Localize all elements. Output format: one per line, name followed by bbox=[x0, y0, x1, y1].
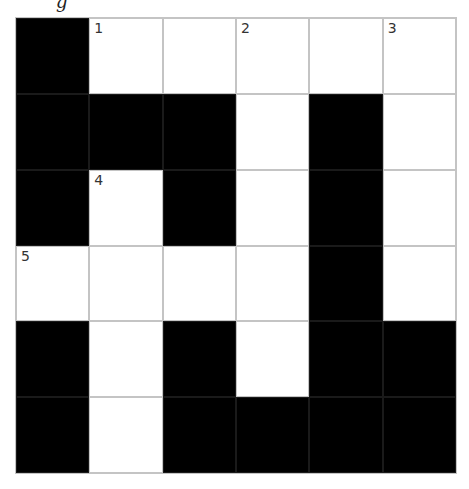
crossword-cell-black bbox=[164, 398, 235, 472]
crossword-cell-white[interactable]: 3 bbox=[384, 19, 455, 93]
crossword-cell-black bbox=[17, 322, 88, 396]
cropped-heading-fragment: g bbox=[56, 0, 68, 12]
crossword-cell-white[interactable] bbox=[384, 171, 455, 245]
clue-number: 2 bbox=[241, 21, 250, 35]
crossword-grid: 12345 bbox=[15, 17, 457, 474]
crossword-cell-black bbox=[310, 171, 381, 245]
clue-number: 5 bbox=[21, 249, 30, 263]
crossword-cell-white[interactable] bbox=[164, 247, 235, 321]
crossword-cell-white[interactable]: 5 bbox=[17, 247, 88, 321]
crossword-cell-white[interactable]: 2 bbox=[237, 19, 308, 93]
crossword-cell-black bbox=[310, 398, 381, 472]
crossword-cell-white[interactable] bbox=[237, 247, 308, 321]
crossword-cell-white[interactable] bbox=[384, 95, 455, 169]
crossword-cell-black bbox=[384, 398, 455, 472]
crossword-cell-white[interactable] bbox=[384, 247, 455, 321]
crossword-cell-black bbox=[17, 95, 88, 169]
crossword-cell-black bbox=[17, 19, 88, 93]
crossword-cell-white[interactable] bbox=[237, 95, 308, 169]
crossword-cell-white[interactable] bbox=[237, 171, 308, 245]
crossword-cell-black bbox=[17, 398, 88, 472]
crossword-cell-white[interactable] bbox=[164, 19, 235, 93]
crossword-cell-white[interactable] bbox=[237, 322, 308, 396]
crossword-cell-black bbox=[384, 322, 455, 396]
crossword-cell-black bbox=[237, 398, 308, 472]
clue-number: 1 bbox=[94, 21, 103, 35]
crossword-cell-black bbox=[164, 171, 235, 245]
crossword-cell-black bbox=[17, 171, 88, 245]
crossword-cell-black bbox=[310, 322, 381, 396]
crossword-cell-black bbox=[164, 322, 235, 396]
crossword-cell-black bbox=[164, 95, 235, 169]
crossword-cell-black bbox=[310, 247, 381, 321]
crossword-cell-black bbox=[310, 95, 381, 169]
crossword-cell-white[interactable] bbox=[90, 247, 161, 321]
crossword-cell-white[interactable] bbox=[90, 398, 161, 472]
crossword-cell-white[interactable] bbox=[310, 19, 381, 93]
crossword-cell-white[interactable]: 4 bbox=[90, 171, 161, 245]
clue-number: 3 bbox=[388, 21, 397, 35]
crossword-cell-white[interactable]: 1 bbox=[90, 19, 161, 93]
crossword-cell-white[interactable] bbox=[90, 322, 161, 396]
clue-number: 4 bbox=[94, 173, 103, 187]
crossword-cell-black bbox=[90, 95, 161, 169]
